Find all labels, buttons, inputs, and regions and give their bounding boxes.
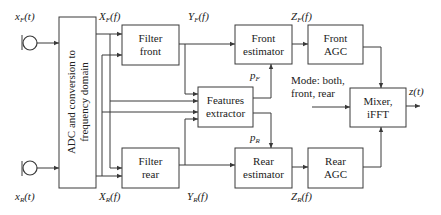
filter-rear-label-line1: Filter [139,155,163,167]
signal-yf-f: YF(f) [188,10,209,24]
rear-agc-block: Rear AGC [308,148,363,188]
rear-estimator-block: Rear estimator [235,148,292,188]
filter-rear-block: Filter rear [122,148,179,188]
signal-xf-f: XF(f) [98,10,121,24]
rear-estimator-label-line1: Rear [253,155,274,167]
mode-label-line2: front, rear [291,87,335,99]
features-label-line2: extractor [206,107,245,119]
filter-rear-label-line2: rear [142,168,159,180]
signal-xr-f: XR(f) [98,190,121,204]
rear-estimator-label-line2: estimator [243,168,284,180]
adc-block: ADC and conversion to frequency domain [59,17,96,188]
signal-zr-f: ZR(f) [291,190,312,204]
signal-z-t: z(t) [408,85,424,98]
front-estimator-block: Front estimator [235,25,292,64]
signal-zf-f: ZF(f) [291,10,312,24]
front-agc-label-line1: Front [324,32,348,44]
signal-pf: pF [249,69,261,83]
mixer-block: Mixer, iFFT [350,88,406,127]
wire-rear-agc-to-mixer [363,127,381,167]
front-agc-label-line2: AGC [324,45,347,57]
adc-label-line2: frequency domain [78,62,90,142]
front-agc-block: Front AGC [308,25,363,64]
signal-pr: pR [249,131,261,145]
rear-agc-label-line2: AGC [324,168,347,180]
front-microphone-icon [22,35,37,50]
filter-front-label-line2: front [140,45,161,57]
mixer-label-line1: Mixer, [363,95,392,107]
features-extractor-block: Features extractor [198,87,253,127]
mixer-label-line2: iFFT [367,108,389,120]
block-diagram: ADC and conversion to frequency domain F… [0,0,441,215]
signal-xf-t: xF(t) [14,10,35,24]
front-estimator-label-line1: Front [252,32,276,44]
filter-front-label-line1: Filter [139,32,163,44]
front-estimator-label-line2: estimator [243,45,284,57]
signal-xr-t: xR(t) [14,190,35,204]
wire-front-agc-to-mixer [363,47,381,88]
mode-label-line1: Mode: both, [291,74,345,86]
signal-yr-f: YR(f) [187,190,208,204]
adc-label-line1: ADC and conversion to [65,49,77,154]
filter-front-block: Filter front [122,25,179,65]
rear-agc-label-line1: Rear [325,155,346,167]
features-label-line1: Features [207,94,244,106]
rear-microphone-icon [22,161,37,176]
